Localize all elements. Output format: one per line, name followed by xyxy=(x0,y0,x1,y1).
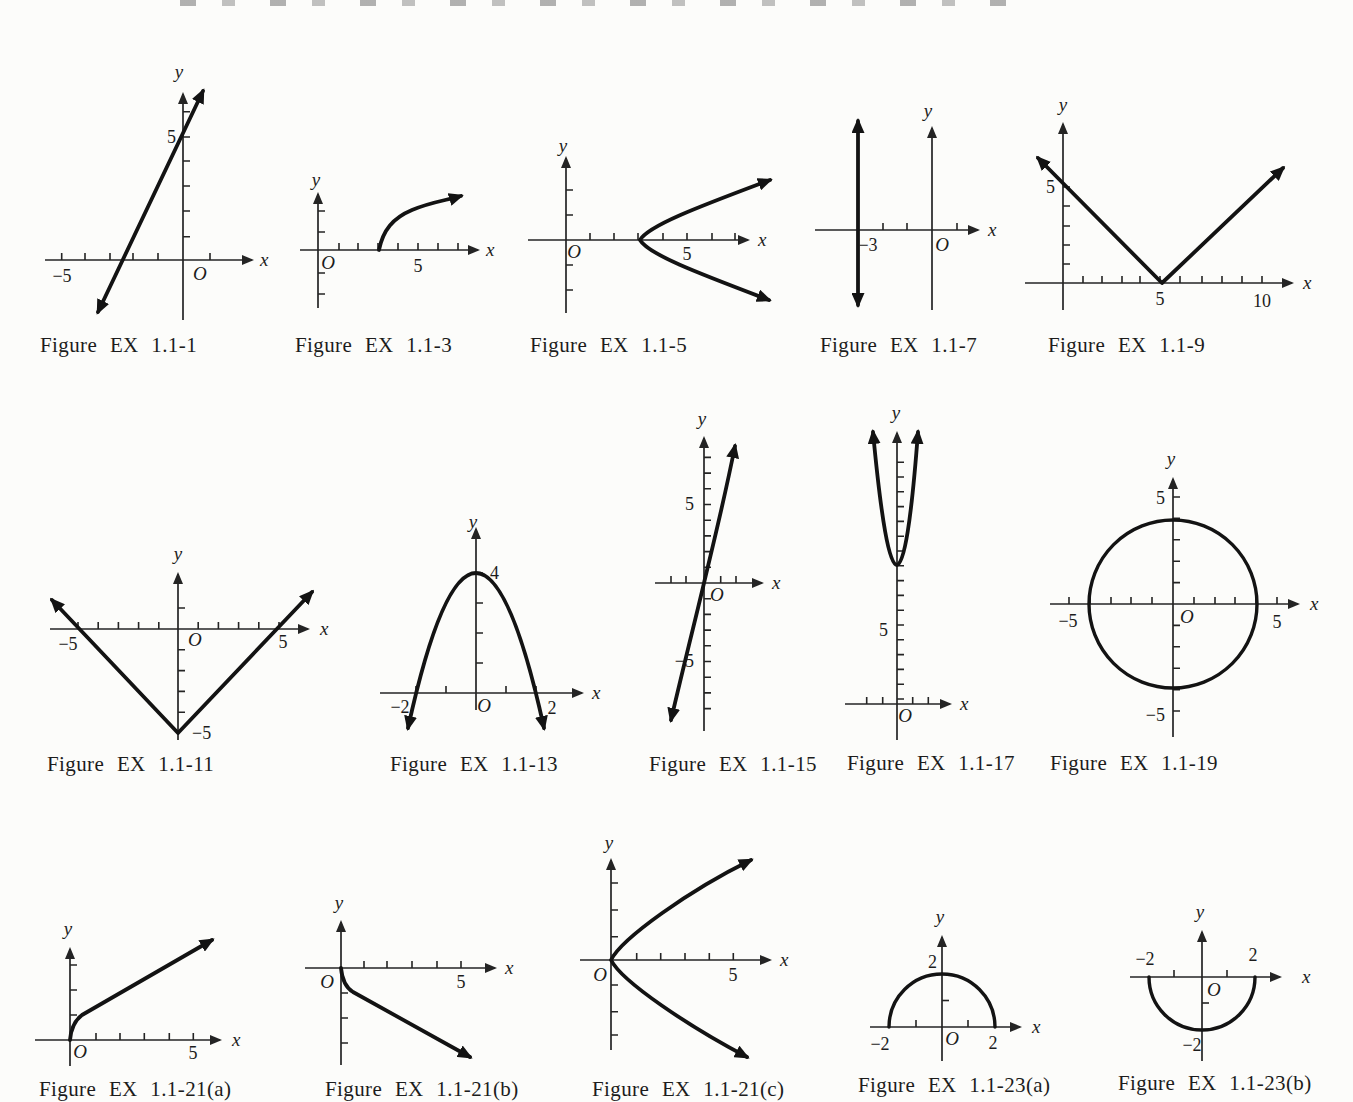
v-curve xyxy=(1038,158,1283,283)
x-ticks xyxy=(637,953,734,960)
vertex-label-neg5: −5 xyxy=(192,723,211,743)
figure-caption: Figure EX 1.1-19 xyxy=(1050,751,1218,776)
x-tick-label-10: 10 xyxy=(1253,291,1271,311)
figure-caption: Figure EX 1.1-23(b) xyxy=(1118,1071,1312,1096)
origin-label: O xyxy=(935,234,949,255)
y-tick-label-5: 5 xyxy=(1156,488,1165,508)
x-axis-label: x xyxy=(259,249,269,270)
y-ticks xyxy=(897,462,904,699)
x-tick-label-neg5: −5 xyxy=(52,266,71,286)
x-tick-label-neg5: −5 xyxy=(1058,611,1077,631)
x-ticks xyxy=(96,1033,193,1040)
x-axis-label: x xyxy=(959,693,969,714)
figure-caption: Figure EX 1.1-3 xyxy=(295,333,452,358)
y-axis-label: y xyxy=(333,892,344,913)
origin-label: O xyxy=(188,629,202,650)
figure-ex-1-1-21c: y x O 5 xyxy=(570,835,830,1070)
graph-v-shape: y x 5 5 10 xyxy=(1020,95,1353,345)
graph-line: y x 5 −5 O xyxy=(30,60,280,330)
x-axis-label: x xyxy=(231,1029,241,1050)
figure-caption: Figure EX 1.1-15 xyxy=(649,752,817,777)
y-axis-label: y xyxy=(890,402,901,423)
x-ticks xyxy=(1083,276,1262,283)
x-tick-label-5: 5 xyxy=(189,1043,198,1063)
graph-down-parabola: y x 4 −2 2 O xyxy=(370,515,610,753)
root-curve xyxy=(70,940,212,1040)
y-tick-label-neg5: −5 xyxy=(1146,705,1165,725)
y-ticks xyxy=(178,608,185,712)
y-axis-label: y xyxy=(1194,901,1205,922)
x-ticks xyxy=(883,223,957,230)
x-axis-label: x xyxy=(987,219,997,240)
figure-caption: Figure EX 1.1-23(a) xyxy=(858,1073,1050,1098)
graph-vertical-line: y x −3 O xyxy=(800,95,1030,355)
origin-label: O xyxy=(1180,606,1194,627)
x-tick-label-neg2: −2 xyxy=(1135,949,1154,969)
origin-label: O xyxy=(193,263,207,284)
y-axis-label: y xyxy=(696,408,707,429)
origin-label: O xyxy=(477,695,491,716)
figure-ex-1-1-21b: y x O 5 xyxy=(290,885,550,1080)
graph-root-up: y x O 5 xyxy=(20,905,270,1075)
x-tick-label-2: 2 xyxy=(989,1033,998,1053)
x-tick-label-5: 5 xyxy=(1273,612,1282,632)
x-ticks xyxy=(62,253,210,260)
graph-valley-v: y x −5 O 5 −5 xyxy=(30,545,350,760)
graph-lower-semicircle: y x −2 2 O −2 xyxy=(1100,895,1353,1070)
y-axis-label: y xyxy=(467,511,478,532)
origin-label: O xyxy=(1207,979,1221,1000)
figure-ex-1-1-13: y x 4 −2 2 O xyxy=(370,515,610,753)
y-axis-label: y xyxy=(62,918,73,939)
figure-caption: Figure EX 1.1-21(b) xyxy=(325,1077,519,1102)
graph-sqrt-curve: y x O 5 xyxy=(290,150,520,325)
figure-ex-1-1-7: y x −3 O xyxy=(800,95,1030,355)
figure-ex-1-1-5: y x O 5 xyxy=(520,130,800,360)
parabola-curve xyxy=(873,432,918,565)
x-tick-label-5: 5 xyxy=(279,632,288,652)
x-ticks xyxy=(590,233,735,240)
figure-ex-1-1-23a: y x −2 2 O 2 xyxy=(840,895,1070,1070)
y-tick-label-5: 5 xyxy=(1046,177,1055,197)
figure-ex-1-1-11: y x −5 O 5 −5 xyxy=(30,545,350,760)
graph-right-parabola: y x O 5 xyxy=(520,130,800,360)
y-tick-label-neg2: −2 xyxy=(1182,1035,1201,1055)
y-tick-label-5: 5 xyxy=(879,620,888,640)
figure-caption: Figure EX 1.1-13 xyxy=(390,752,558,777)
figure-caption: Figure EX 1.1-5 xyxy=(530,333,687,358)
x-tick-label-5: 5 xyxy=(1156,289,1165,309)
x-axis-label: x xyxy=(779,949,789,970)
y-axis-label: y xyxy=(173,61,184,82)
x-tick-label-5: 5 xyxy=(414,256,423,276)
figure-caption: Figure EX 1.1-7 xyxy=(820,333,977,358)
origin-label: O xyxy=(593,964,607,985)
figure-ex-1-1-19: y x −5 5 5 −5 O xyxy=(1040,445,1353,765)
figure-caption: Figure EX 1.1-17 xyxy=(847,751,1015,776)
y-axis-label: y xyxy=(1165,448,1176,469)
x-tick-label-5: 5 xyxy=(683,244,692,264)
y-tick-label-neg5: −5 xyxy=(675,651,694,671)
y-ticks xyxy=(1063,187,1070,264)
x-axis-label: x xyxy=(1301,966,1311,987)
x-tick-label-neg2: −2 xyxy=(870,1034,889,1054)
y-tick-label-2: 2 xyxy=(928,952,937,972)
figure-caption: Figure EX 1.1-1 xyxy=(40,333,197,358)
y-axis-label: y xyxy=(310,169,321,190)
figure-ex-1-1-15: y x 5 −5 O xyxy=(630,405,790,780)
x-tick-label-2: 2 xyxy=(548,698,557,718)
x-ticks xyxy=(1174,970,1227,977)
x-axis-label: x xyxy=(504,957,514,978)
x-axis-label: x xyxy=(1031,1016,1041,1037)
figure-ex-1-1-3: y x O 5 xyxy=(290,150,520,325)
parabola-curve xyxy=(611,860,751,1057)
y-axis-label: y xyxy=(934,906,945,927)
figure-ex-1-1-1: y x 5 −5 O xyxy=(30,60,280,330)
origin-label: O xyxy=(945,1028,959,1049)
graph-circle: y x −5 5 5 −5 O xyxy=(1040,445,1353,765)
cropped-text-artifact xyxy=(180,0,1030,6)
figure-caption: Figure EX 1.1-21(a) xyxy=(39,1077,231,1102)
x-axis-label: x xyxy=(485,239,495,260)
figure-caption: Figure EX 1.1-21(c) xyxy=(592,1077,784,1102)
y-axis-label: y xyxy=(603,832,614,853)
figure-ex-1-1-9: y x 5 5 10 xyxy=(1020,95,1353,345)
x-tick-label-5: 5 xyxy=(729,965,738,985)
